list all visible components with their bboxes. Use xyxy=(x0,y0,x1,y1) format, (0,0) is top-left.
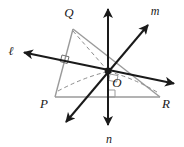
dashed-segment-p-o xyxy=(58,72,106,91)
dashed-segment-q-o xyxy=(73,31,108,71)
label-point-q: Q xyxy=(64,5,74,20)
label-line-n: n xyxy=(106,132,112,146)
label-point-o: O xyxy=(112,75,122,90)
geometry-diagram: Q P R O ℓ m n xyxy=(0,0,184,147)
label-point-r: R xyxy=(161,96,170,111)
line-l xyxy=(24,53,174,84)
label-line-m: m xyxy=(151,4,160,18)
label-line-l: ℓ xyxy=(9,44,14,58)
label-point-p: P xyxy=(39,96,48,111)
point-o-marker xyxy=(105,68,112,75)
right-angle-mark-base xyxy=(108,90,115,97)
geometry-canvas: Q P R O ℓ m n xyxy=(0,0,184,147)
